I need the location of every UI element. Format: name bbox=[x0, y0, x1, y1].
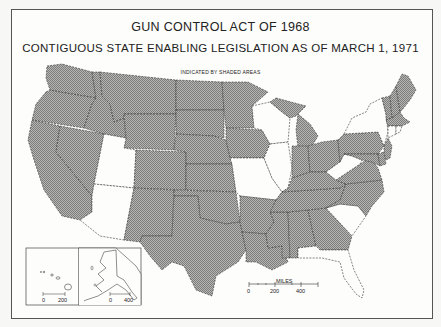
svg-text:MILES: MILES bbox=[276, 278, 293, 284]
scale-bar: MILES 0 200 400 bbox=[247, 278, 318, 294]
state-co bbox=[134, 150, 186, 190]
inset-hawaii-box bbox=[26, 248, 79, 305]
state-mi-lower bbox=[296, 114, 318, 148]
state-ct bbox=[388, 126, 396, 138]
hawaii-islands bbox=[40, 271, 71, 290]
state-wy bbox=[124, 114, 176, 150]
state-ri bbox=[396, 126, 402, 134]
us-map: 0 200 0 400 MILES 0 200 400 bbox=[0, 0, 441, 327]
state-nd bbox=[176, 80, 224, 110]
svg-text:400: 400 bbox=[296, 288, 305, 294]
svg-text:400: 400 bbox=[124, 297, 133, 303]
svg-text:200: 200 bbox=[58, 297, 67, 303]
svg-text:200: 200 bbox=[270, 288, 279, 294]
svg-text:0: 0 bbox=[109, 297, 112, 303]
state-sd bbox=[176, 110, 224, 138]
state-me bbox=[396, 74, 416, 112]
svg-text:0: 0 bbox=[42, 297, 45, 303]
state-ks bbox=[186, 164, 236, 192]
hawaii-scale: 0 200 bbox=[42, 292, 67, 303]
svg-text:0: 0 bbox=[247, 288, 250, 294]
state-fl bbox=[298, 246, 364, 298]
